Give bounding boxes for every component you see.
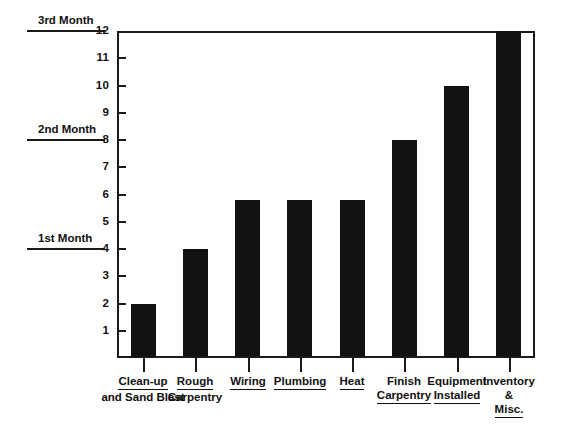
x-axis-label-line: Carpentry [135, 390, 255, 404]
x-axis-tick-2 [248, 358, 250, 372]
y-axis-tick-7 [117, 166, 126, 168]
x-axis-tick-6 [457, 358, 459, 372]
y-axis-label-5: 5 [67, 216, 109, 228]
y-axis-tick-3 [117, 275, 126, 277]
y-axis-label-7: 7 [67, 161, 109, 173]
y-axis-tick-10 [117, 85, 126, 87]
y-axis-tick-11 [117, 57, 126, 59]
y-axis-label-10: 10 [67, 80, 109, 92]
y-axis-tick-9 [117, 112, 126, 114]
y-axis-label-3: 3 [67, 270, 109, 282]
bar-2 [235, 200, 260, 356]
month-marker-label-3: 1st Month [38, 233, 92, 245]
y-axis-tick-6 [117, 194, 126, 196]
month-marker-rule-1 [27, 30, 105, 32]
x-axis-tick-0 [143, 358, 145, 372]
y-axis-tick-8 [117, 139, 126, 141]
x-axis-label-line: Misc. [495, 402, 524, 418]
x-axis-tick-1 [195, 358, 197, 372]
x-axis-tick-4 [352, 358, 354, 372]
bar-0 [131, 304, 156, 357]
x-axis-label-7: Inventory&Misc. [449, 374, 569, 418]
bar-1 [183, 249, 208, 356]
y-axis-tick-4 [117, 248, 126, 250]
y-axis-label-1: 1 [67, 325, 109, 337]
y-axis-tick-5 [117, 221, 126, 223]
month-marker-label-1: 3rd Month [38, 15, 94, 27]
y-axis-label-6: 6 [67, 189, 109, 201]
x-axis-tick-7 [509, 358, 511, 372]
bar-7 [496, 31, 521, 356]
x-axis-tick-5 [404, 358, 406, 372]
y-axis-label-2: 2 [67, 298, 109, 310]
bar-6 [444, 86, 469, 357]
x-axis-label-line: Inventory [449, 374, 569, 388]
bar-5 [392, 140, 417, 356]
y-axis-label-9: 9 [67, 107, 109, 119]
y-axis-label-11: 11 [67, 52, 109, 64]
month-marker-rule-3 [27, 248, 105, 250]
plot-area [117, 31, 535, 358]
bar-4 [340, 200, 365, 356]
month-marker-label-2: 2nd Month [38, 124, 96, 136]
x-axis-tick-3 [300, 358, 302, 372]
y-axis-tick-1 [117, 330, 126, 332]
y-axis-tick-2 [117, 303, 126, 305]
bar-3 [287, 200, 312, 356]
x-axis-label-line: & [449, 388, 569, 402]
month-marker-rule-2 [27, 139, 105, 141]
bar-chart: 1211109876543213rd Month2nd Month1st Mon… [0, 0, 583, 431]
